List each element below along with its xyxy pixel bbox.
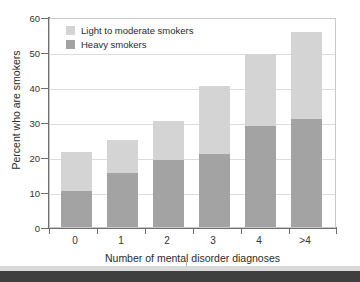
- bar-0-heavy-segment: [61, 191, 92, 227]
- legend-swatch-heavy-icon: [66, 40, 75, 49]
- y-tick-mark: [41, 123, 48, 124]
- y-tick-mark: [41, 18, 48, 19]
- bar-5-light-segment: [291, 32, 322, 119]
- bar-5[interactable]: [291, 32, 322, 227]
- x-tick-mark: [49, 229, 50, 234]
- x-tick-mark: [97, 229, 98, 234]
- x-tick-label-4: 4: [236, 235, 282, 246]
- bar-3-heavy-segment: [199, 154, 230, 228]
- x-tick-label-2: 2: [144, 235, 190, 246]
- bar-2[interactable]: [153, 121, 184, 227]
- bar-5-heavy-segment: [291, 119, 322, 227]
- page-band-dark: [0, 271, 360, 282]
- y-tick-mark: [41, 228, 48, 229]
- x-tick-label-3: 3: [190, 235, 236, 246]
- x-tick-mark: [289, 229, 290, 234]
- bar-2-heavy-segment: [153, 160, 184, 227]
- y-tick-label-60: 60: [12, 13, 40, 24]
- x-axis-title: Number of mental disorder diagnoses: [49, 252, 336, 264]
- legend-item-heavy[interactable]: Heavy smokers: [66, 39, 193, 50]
- legend-swatch-light-icon: [66, 26, 75, 35]
- y-tick-mark: [41, 53, 48, 54]
- x-tick-label-0: 0: [52, 235, 98, 246]
- x-tick-mark: [241, 229, 242, 234]
- bar-2-light-segment: [153, 121, 184, 160]
- x-tick-mark: [193, 229, 194, 234]
- x-tick-label-gt4: >4: [282, 235, 328, 246]
- legend-label-light: Light to moderate smokers: [81, 25, 193, 36]
- legend-label-heavy: Heavy smokers: [81, 39, 146, 50]
- legend-item-light[interactable]: Light to moderate smokers: [66, 25, 193, 36]
- bar-0[interactable]: [61, 152, 92, 227]
- y-tick-mark: [41, 88, 48, 89]
- bar-3[interactable]: [199, 86, 230, 227]
- bar-4-light-segment: [245, 54, 276, 125]
- bar-3-light-segment: [199, 86, 230, 153]
- y-tick-label-0: 0: [12, 223, 40, 234]
- y-tick-mark: [41, 193, 48, 194]
- bar-1[interactable]: [107, 140, 138, 227]
- x-tick-label-1: 1: [98, 235, 144, 246]
- y-tick-mark: [41, 158, 48, 159]
- x-tick-mark: [336, 229, 337, 234]
- chart-figure: 60 50 40 30 20 10 0: [0, 0, 360, 282]
- bar-0-light-segment: [61, 152, 92, 191]
- bar-1-heavy-segment: [107, 173, 138, 227]
- bar-4[interactable]: [245, 54, 276, 227]
- bar-1-light-segment: [107, 140, 138, 173]
- plot-area: Light to moderate smokers Heavy smokers: [49, 18, 336, 228]
- chart-legend: Light to moderate smokers Heavy smokers: [66, 25, 193, 53]
- y-axis-title: Percent who are smokers: [10, 30, 22, 190]
- bar-4-heavy-segment: [245, 126, 276, 227]
- x-tick-mark: [145, 229, 146, 234]
